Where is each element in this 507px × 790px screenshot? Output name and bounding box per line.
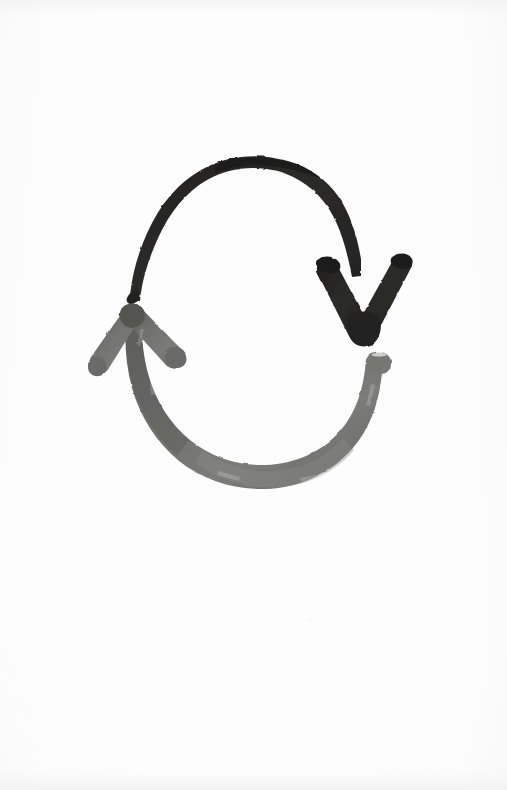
upper-arrow-tail-taper <box>127 291 140 304</box>
lower-gray-arrow <box>88 303 391 489</box>
scanned-page <box>0 0 507 790</box>
upper-arrow-head-apex <box>348 312 381 347</box>
upper-dark-arrow <box>127 156 413 346</box>
lower-arrow-head-left-barb-cap <box>88 357 107 377</box>
cycle-arrows-drawing <box>0 0 507 790</box>
